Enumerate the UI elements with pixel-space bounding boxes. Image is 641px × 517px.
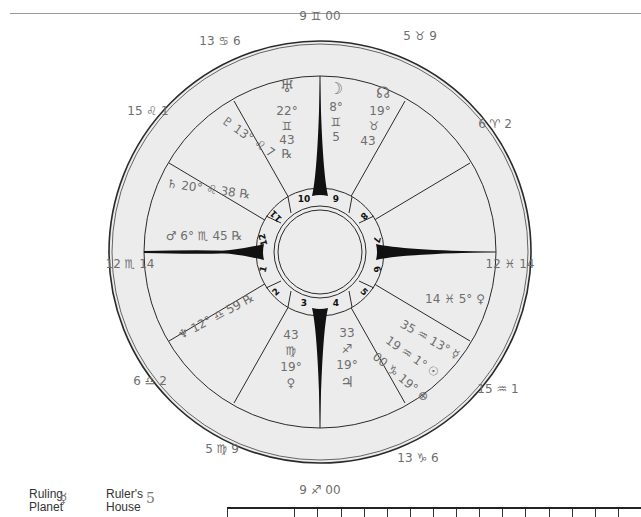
svg-text:♊: ♊ (331, 115, 342, 129)
svg-text:9: 9 (333, 194, 339, 204)
svg-text:6 ♎ 2: 6 ♎ 2 (133, 374, 167, 388)
svg-text:8°: 8° (329, 100, 343, 114)
rulers-house-legend: Ruler's House 5 (106, 488, 143, 514)
ruling-planet-label-2: Planet (29, 501, 63, 514)
svg-text:14 ♓ 5° ♀: 14 ♓ 5° ♀ (425, 292, 485, 306)
svg-text:6 ♈ 2: 6 ♈ 2 (478, 117, 512, 131)
svg-text:13 ♋ 6: 13 ♋ 6 (199, 34, 240, 48)
svg-text:♀: ♀ (287, 376, 296, 390)
svg-text:☽: ☽ (329, 79, 343, 98)
svg-text:♉: ♉ (369, 119, 380, 133)
svg-text:♃: ♃ (340, 373, 353, 391)
svg-text:9 ♐ 00: 9 ♐ 00 (299, 483, 340, 497)
svg-text:13 ♑ 6: 13 ♑ 6 (397, 451, 438, 465)
svg-text:☊: ☊ (376, 83, 390, 102)
svg-text:5 ♉ 9: 5 ♉ 9 (403, 29, 437, 43)
svg-text:22°: 22° (276, 104, 297, 118)
svg-text:♂ 6° ♏ 45 ℞: ♂ 6° ♏ 45 ℞ (166, 229, 242, 243)
svg-text:5 ♍ 9: 5 ♍ 9 (205, 442, 239, 456)
svg-text:15 ♒ 1: 15 ♒ 1 (477, 382, 518, 396)
svg-text:19°: 19° (336, 358, 357, 372)
svg-text:33: 33 (339, 326, 354, 340)
rulers-house-label-2: House (106, 501, 143, 514)
svg-text:4: 4 (333, 298, 339, 308)
svg-text:5: 5 (332, 130, 340, 144)
svg-text:43: 43 (283, 328, 298, 342)
svg-text:19°: 19° (369, 104, 390, 118)
svg-text:12 ♓ 14: 12 ♓ 14 (486, 257, 535, 271)
aspect-table-top-edge (227, 507, 641, 517)
svg-text:♍: ♍ (286, 344, 297, 358)
svg-text:℞: ℞ (282, 147, 293, 161)
svg-text:♊: ♊ (282, 119, 293, 133)
center-circle (278, 210, 362, 294)
ruling-planet-value: ☿ (59, 492, 68, 505)
svg-text:3: 3 (301, 298, 307, 308)
svg-text:♐: ♐ (342, 342, 353, 356)
svg-text:12 ♏ 14: 12 ♏ 14 (106, 257, 155, 271)
svg-text:15 ♌ 1: 15 ♌ 1 (127, 104, 168, 118)
svg-text:9 ♊ 00: 9 ♊ 00 (299, 9, 340, 23)
svg-text:19°: 19° (280, 360, 301, 374)
svg-text:43: 43 (279, 133, 294, 147)
ruling-planet-legend: Ruling Planet ☿ (29, 488, 63, 514)
svg-text:10: 10 (298, 194, 311, 204)
rulers-house-value: 5 (146, 492, 155, 505)
svg-text:♅: ♅ (280, 77, 294, 96)
svg-text:43: 43 (360, 134, 375, 148)
